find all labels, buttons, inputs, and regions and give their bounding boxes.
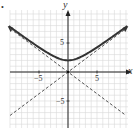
x-axis-label: x — [128, 66, 132, 76]
y-axis-label: y — [63, 0, 67, 10]
plot — [0, 0, 133, 128]
bullet: • — [1, 4, 4, 12]
y-tick-neg5: −5 — [56, 98, 65, 106]
y-tick-pos5: 5 — [60, 39, 64, 47]
x-tick-neg5: −5 — [34, 75, 43, 83]
x-tick-pos5: 5 — [95, 75, 99, 83]
y-axis-arrow-icon — [66, 10, 71, 16]
origin-point — [67, 71, 70, 74]
